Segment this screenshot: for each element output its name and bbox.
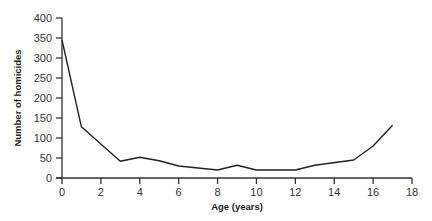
x-axis-title: Age (years) [211, 201, 263, 212]
y-tick-label: 200 [34, 92, 52, 104]
y-tick-label: 350 [34, 32, 52, 44]
y-tick-label: 300 [34, 52, 52, 64]
x-tick-label: 16 [367, 186, 379, 198]
x-tick-label: 4 [137, 186, 143, 198]
x-tick-label: 0 [59, 186, 65, 198]
x-tick-label: 10 [250, 186, 262, 198]
x-tick-label: 2 [98, 186, 104, 198]
y-tick-label: 400 [34, 12, 52, 24]
y-axis-title: Number of homicides [12, 49, 23, 146]
y-tick-label: 150 [34, 112, 52, 124]
x-tick-label: 18 [406, 186, 418, 198]
y-tick-label: 0 [46, 172, 52, 184]
x-tick-label: 8 [214, 186, 220, 198]
x-tick-label: 12 [289, 186, 301, 198]
series-line [62, 40, 393, 170]
y-tick-label: 250 [34, 72, 52, 84]
x-tick-label: 6 [176, 186, 182, 198]
y-tick-label: 100 [34, 132, 52, 144]
x-tick-label: 14 [328, 186, 340, 198]
line-chart: 050100150200250300350400 024681012141618… [0, 0, 432, 221]
data-series [62, 40, 393, 170]
x-axis: 024681012141618 [56, 178, 418, 198]
y-tick-label: 50 [40, 152, 52, 164]
y-axis: 050100150200250300350400 [34, 12, 62, 184]
